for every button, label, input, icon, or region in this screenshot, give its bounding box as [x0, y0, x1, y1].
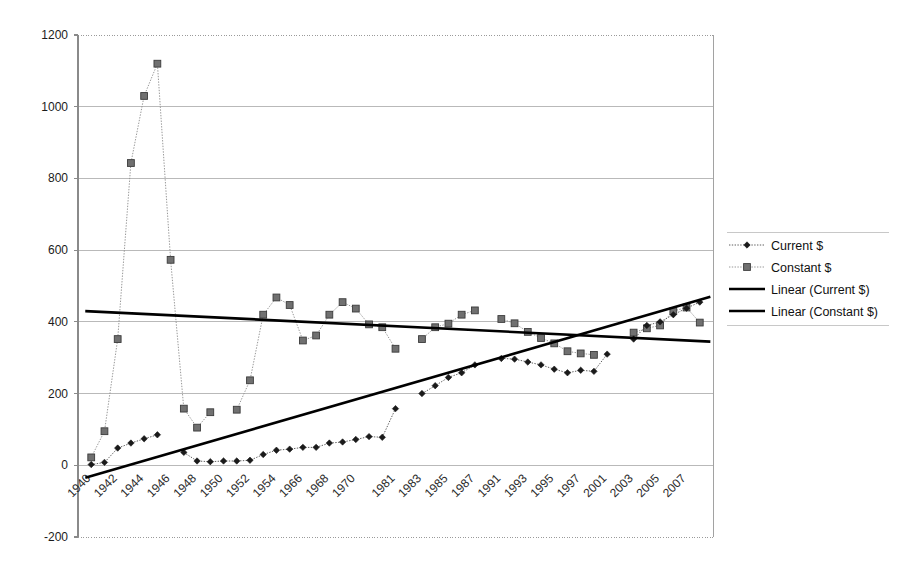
y-tick-label: 800: [48, 171, 68, 185]
data-point-marker: [313, 444, 319, 450]
x-tick-label: 1970: [329, 471, 358, 500]
data-point-marker: [525, 359, 531, 365]
data-point-marker: [247, 377, 254, 384]
x-tick-label: 1966: [276, 471, 305, 500]
trendline-layer: [85, 297, 710, 478]
legend-item-label: Current $: [771, 239, 823, 253]
data-point-marker: [101, 428, 108, 435]
data-point-marker: [551, 366, 557, 372]
series-path: [91, 64, 210, 458]
x-tick-label: 1981: [369, 471, 398, 500]
data-point-marker: [392, 345, 399, 352]
data-point-marker: [286, 446, 292, 452]
x-tick-label: 1954: [250, 471, 279, 500]
data-point-marker: [167, 256, 174, 263]
data-point-marker: [141, 436, 147, 442]
data-point-marker: [744, 264, 751, 271]
data-point-marker: [114, 336, 121, 343]
x-tick-label: 1948: [170, 471, 199, 500]
data-point-marker: [339, 299, 346, 306]
data-point-marker: [511, 356, 517, 362]
data-point-marker: [299, 337, 306, 344]
data-point-marker: [419, 390, 425, 396]
data-point-marker: [352, 305, 359, 312]
y-tick-label: 400: [48, 315, 68, 329]
x-tick-label: 1968: [303, 471, 332, 500]
data-point-marker: [538, 362, 544, 368]
y-tick-label: 1000: [41, 100, 68, 114]
data-point-marker: [300, 444, 306, 450]
data-point-marker: [445, 320, 452, 327]
chart-container: 120010008006004002000-200 19401942194419…: [0, 0, 908, 567]
data-point-marker: [577, 350, 584, 357]
data-point-marker: [353, 436, 359, 442]
data-point-marker: [538, 335, 545, 342]
data-point-marker: [445, 374, 451, 380]
data-point-marker: [339, 439, 345, 445]
data-point-marker: [207, 459, 213, 465]
x-tick-label: 1983: [395, 471, 424, 500]
y-tick-label: 200: [48, 387, 68, 401]
data-point-marker: [154, 432, 160, 438]
data-point-marker: [419, 336, 426, 343]
data-point-marker: [498, 316, 505, 323]
data-point-marker: [233, 406, 240, 413]
x-tick-label: 1952: [223, 471, 252, 500]
x-tick-label: 1950: [197, 471, 226, 500]
data-point-marker: [458, 311, 465, 318]
data-point-marker: [194, 424, 201, 431]
data-point-marker: [260, 311, 267, 318]
x-tick-label: 1991: [475, 471, 504, 500]
data-point-marker: [128, 440, 134, 446]
data-point-marker: [511, 320, 518, 327]
data-point-marker: [326, 311, 333, 318]
chart-canvas: 120010008006004002000-200 19401942194419…: [0, 0, 908, 567]
data-point-marker: [578, 367, 584, 373]
data-point-marker: [432, 382, 438, 388]
data-point-marker: [591, 351, 598, 358]
data-point-marker: [220, 458, 226, 464]
data-point-marker: [591, 368, 597, 374]
data-point-marker: [286, 302, 293, 309]
data-point-marker: [379, 434, 385, 440]
y-tick-label: 1200: [41, 28, 68, 42]
x-axis-tick-labels: 1940194219441946194819501952195419661968…: [65, 471, 689, 500]
x-tick-label: 1946: [144, 471, 173, 500]
data-point-marker: [154, 60, 161, 67]
series-current-dollars: [88, 299, 703, 468]
data-point-marker: [392, 405, 398, 411]
data-point-marker: [207, 409, 214, 416]
data-point-marker: [141, 93, 148, 100]
data-point-marker: [194, 458, 200, 464]
x-tick-label: 2005: [633, 471, 662, 500]
x-tick-label: 1944: [117, 471, 146, 500]
x-tick-label: 2001: [581, 471, 610, 500]
data-point-marker: [326, 440, 332, 446]
data-point-marker: [630, 329, 637, 336]
data-point-marker: [260, 451, 266, 457]
data-point-marker: [564, 370, 570, 376]
y-tick-label: -200: [44, 530, 68, 544]
legend: Current $Constant $Linear (Current $)Lin…: [725, 231, 897, 329]
data-point-marker: [114, 445, 120, 451]
data-point-marker: [273, 294, 280, 301]
data-point-marker: [247, 457, 253, 463]
data-point-marker: [471, 307, 478, 314]
x-tick-label: 1995: [528, 471, 557, 500]
data-point-marker: [273, 447, 279, 453]
series-constant-dollars: [88, 60, 703, 461]
y-tick-label: 600: [48, 243, 68, 257]
data-point-marker: [234, 458, 240, 464]
data-point-marker: [313, 332, 320, 339]
data-point-marker: [366, 433, 372, 439]
legend-item-label: Linear (Current $): [771, 283, 870, 297]
y-tick-label: 0: [61, 458, 68, 472]
trendline: [85, 311, 710, 341]
data-point-marker: [180, 405, 187, 412]
data-point-marker: [88, 461, 94, 467]
trendline: [85, 297, 710, 478]
x-tick-label: 2003: [607, 471, 636, 500]
y-axis-tick-labels: 120010008006004002000-200: [41, 28, 78, 544]
data-point-marker: [696, 319, 703, 326]
legend-item-label: Linear (Constant $): [771, 305, 878, 319]
